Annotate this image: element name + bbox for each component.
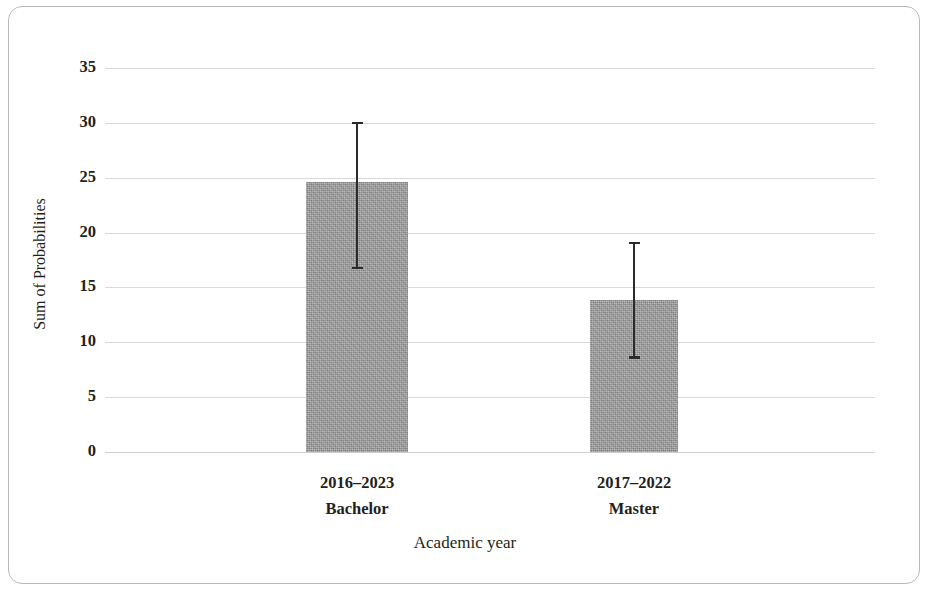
y-tick-label-5: 5 <box>62 388 96 405</box>
gridline-5 <box>105 397 875 398</box>
y-tick-label-35: 35 <box>62 59 96 76</box>
gridline-25 <box>105 178 875 179</box>
y-tick-label-30: 30 <box>62 114 96 131</box>
bar-chart-plot-area: 35 30 25 20 15 10 5 0 2016–2023 Bachelor… <box>0 0 930 594</box>
y-axis-title: Sum of Probabilities <box>31 164 49 364</box>
y-tick-label-15: 15 <box>62 278 96 295</box>
gridline-15 <box>105 287 875 288</box>
category-degree-bachelor: Bachelor <box>277 496 437 522</box>
y-tick-label-20: 20 <box>62 224 96 241</box>
category-degree-master: Master <box>554 496 714 522</box>
y-tick-label-10: 10 <box>62 333 96 350</box>
error-bar-cap-upper-bachelor <box>352 122 363 124</box>
x-axis-title: Academic year <box>0 533 930 553</box>
y-tick-label-0: 0 <box>62 443 96 460</box>
category-label-bachelor: 2016–2023 Bachelor <box>277 470 437 521</box>
category-year-bachelor: 2016–2023 <box>277 470 437 496</box>
gridline-35 <box>105 68 875 69</box>
y-tick-label-25: 25 <box>62 169 96 186</box>
error-bar-cap-upper-master <box>629 242 640 244</box>
gridline-20 <box>105 233 875 234</box>
category-label-master: 2017–2022 Master <box>554 470 714 521</box>
error-bar-line-master <box>633 243 635 358</box>
error-bar-cap-lower-master <box>629 356 640 358</box>
gridline-0 <box>105 452 875 453</box>
error-bar-cap-lower-bachelor <box>352 267 363 269</box>
gridline-30 <box>105 123 875 124</box>
category-year-master: 2017–2022 <box>554 470 714 496</box>
gridline-10 <box>105 342 875 343</box>
error-bar-line-bachelor <box>356 123 358 268</box>
